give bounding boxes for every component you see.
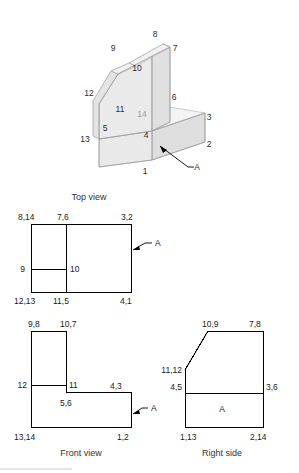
iso-label-11: 11 bbox=[116, 104, 125, 114]
iso-label-12: 12 bbox=[84, 88, 94, 98]
top-view-leader-arrowhead bbox=[133, 246, 140, 250]
right-side-label-4-5: 4,5 bbox=[170, 382, 182, 392]
iso-label-4: 4 bbox=[144, 130, 149, 140]
technical-drawing-svg: 8 7 9 10 12 6 11 14 3 5 4 13 2 1 A Top v… bbox=[0, 0, 299, 473]
right-side-label-10-9: 10,9 bbox=[202, 319, 219, 329]
top-view-label-9: 9 bbox=[20, 264, 25, 274]
iso-label-9: 9 bbox=[111, 43, 116, 53]
front-view-leader-arrowhead bbox=[133, 410, 140, 414]
right-side-view-title: Right side bbox=[202, 448, 242, 458]
iso-label-1: 1 bbox=[143, 166, 148, 176]
top-view-label-8-14: 8,14 bbox=[18, 212, 35, 222]
top-view-title: Top view bbox=[71, 192, 107, 202]
iso-label-14: 14 bbox=[137, 109, 147, 119]
iso-label-13: 13 bbox=[80, 134, 90, 144]
top-view-label-a: A bbox=[155, 238, 161, 248]
top-view bbox=[31, 224, 152, 292]
top-view-label-11-5: 11,5 bbox=[53, 296, 69, 306]
drawing-canvas: 8 7 9 10 12 6 11 14 3 5 4 13 2 1 A Top v… bbox=[0, 0, 299, 473]
front-view-labels: 9,8 10,7 12 11 4,3 5,6 13,14 1,2 A bbox=[14, 319, 157, 442]
front-view-label-9-8: 9,8 bbox=[28, 319, 40, 329]
right-side-label-a: A bbox=[219, 404, 225, 414]
right-side-label-11-12: 11,12 bbox=[161, 365, 182, 375]
right-side-label-7-8: 7,8 bbox=[249, 319, 261, 329]
front-view-label-11: 11 bbox=[69, 380, 78, 390]
iso-label-a: A bbox=[194, 162, 200, 172]
iso-label-10: 10 bbox=[132, 63, 142, 73]
right-side-label-2-14: 2,14 bbox=[250, 432, 267, 442]
iso-face-wall-right bbox=[152, 47, 170, 131]
iso-label-2: 2 bbox=[207, 139, 212, 149]
iso-label-8: 8 bbox=[153, 29, 158, 39]
front-view-label-a: A bbox=[151, 403, 157, 413]
right-side-view-labels: 10,9 7,8 11,12 4,5 3,6 A 1,13 2,14 bbox=[161, 319, 278, 442]
front-view-label-1-2: 1,2 bbox=[117, 432, 129, 442]
front-view-title: Front view bbox=[60, 448, 102, 458]
iso-label-6: 6 bbox=[172, 92, 177, 102]
right-side-label-3-6: 3,6 bbox=[266, 382, 278, 392]
front-view-label-13-14: 13,14 bbox=[14, 432, 36, 442]
top-view-label-10: 10 bbox=[70, 264, 80, 274]
right-side-label-1-13: 1,13 bbox=[180, 432, 197, 442]
front-view bbox=[31, 331, 148, 427]
front-view-label-4-3: 4,3 bbox=[110, 381, 122, 391]
top-view-label-4-1: 4,1 bbox=[120, 296, 132, 306]
top-view-label-12-13: 12,13 bbox=[14, 296, 36, 306]
iso-label-5: 5 bbox=[103, 123, 108, 133]
front-view-label-10-7: 10,7 bbox=[60, 319, 77, 329]
top-view-label-7-6: 7,6 bbox=[57, 212, 69, 222]
front-view-label-12: 12 bbox=[18, 380, 28, 390]
iso-label-3: 3 bbox=[207, 112, 212, 122]
right-side-view-chamfer-edge bbox=[185, 331, 208, 370]
front-view-label-5-6: 5,6 bbox=[60, 398, 72, 408]
top-view-outline bbox=[31, 224, 131, 292]
front-view-outline bbox=[31, 331, 131, 427]
top-view-label-3-2: 3,2 bbox=[121, 212, 133, 222]
iso-label-7: 7 bbox=[173, 43, 178, 53]
isometric-pictorial bbox=[93, 44, 205, 167]
